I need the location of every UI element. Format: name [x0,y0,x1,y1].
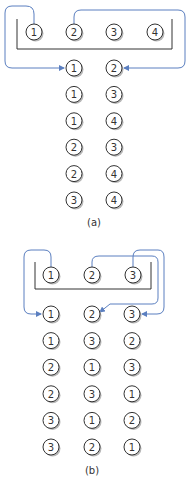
pair-node: 4 [106,113,124,131]
permutation-node: 1 [84,412,102,430]
node-label: 2 [48,389,54,400]
node-label: 1 [89,362,95,373]
chosen-pairs-a: 121314232434 [66,60,124,210]
set-element-node: 1 [26,24,44,42]
node-label: 1 [71,63,77,74]
permutation-node: 2 [124,333,142,351]
permutation-node: 2 [43,386,61,404]
set-element-node: 2 [66,24,84,42]
node-label: 2 [89,270,95,281]
node-label: 1 [71,116,77,127]
node-label: 4 [111,116,117,127]
set-element-node: 4 [147,24,165,42]
arrow-b-2 [92,256,158,312]
diagram-canvas: 1234 121314232434 (a) 123 12313221323131… [0,0,191,483]
permutation-node: 1 [124,386,142,404]
permutation-node: 1 [124,439,142,457]
figure-a: 1234 121314232434 (a) [5,6,185,228]
node-label: 3 [111,27,117,38]
node-label: 2 [129,336,135,347]
node-label: 4 [111,169,117,180]
permutation-node: 2 [43,359,61,377]
node-label: 3 [71,195,77,206]
caption-b: (b) [85,465,99,476]
pair-node: 1 [66,60,84,78]
node-label: 2 [89,442,95,453]
permutation-node: 3 [43,412,61,430]
node-label: 1 [31,27,37,38]
permutation-node: 1 [43,306,61,324]
node-label: 1 [129,389,135,400]
node-label: 2 [71,142,77,153]
arrow-a-2 [74,10,185,68]
set-element-node: 3 [106,24,124,42]
node-label: 3 [48,442,54,453]
node-label: 3 [111,89,117,100]
node-label: 4 [111,195,117,206]
node-label: 4 [152,27,158,38]
node-label: 3 [129,309,135,320]
permutation-node: 2 [84,306,102,324]
pair-node: 3 [106,86,124,104]
set-a-elements: 1234 [26,24,165,42]
pair-node: 1 [66,113,84,131]
permutation-node: 3 [124,359,142,377]
permutation-node: 1 [84,359,102,377]
pair-node: 4 [106,192,124,210]
set-element-node: 1 [43,267,61,285]
node-label: 2 [71,169,77,180]
node-label: 3 [129,362,135,373]
figure-b: 123 123132213231312321 (b) [24,250,164,476]
pair-node: 2 [66,139,84,157]
pair-node: 2 [66,166,84,184]
set-element-node: 3 [125,267,143,285]
permutation-node: 1 [43,333,61,351]
node-label: 1 [48,309,54,320]
node-label: 2 [129,415,135,426]
node-label: 3 [89,336,95,347]
permutations-b: 123132213231312321 [43,306,142,457]
permutation-node: 2 [124,412,142,430]
node-label: 2 [111,63,117,74]
permutation-node: 3 [43,439,61,457]
pair-node: 1 [66,86,84,104]
node-label: 2 [89,309,95,320]
permutation-node: 2 [84,439,102,457]
node-label: 2 [48,362,54,373]
caption-a: (a) [87,217,101,228]
node-label: 3 [48,415,54,426]
set-b-elements: 123 [43,267,143,285]
node-label: 1 [71,89,77,100]
node-label: 3 [130,270,136,281]
permutation-node: 3 [84,333,102,351]
node-label: 1 [89,415,95,426]
permutation-node: 3 [124,306,142,324]
node-label: 3 [89,389,95,400]
node-label: 2 [71,27,77,38]
node-label: 1 [48,270,54,281]
node-label: 1 [48,336,54,347]
pair-node: 2 [106,60,124,78]
node-label: 1 [129,442,135,453]
permutation-node: 3 [84,386,102,404]
pair-node: 3 [106,139,124,157]
pair-node: 4 [106,166,124,184]
set-element-node: 2 [84,267,102,285]
pair-node: 3 [66,192,84,210]
node-label: 3 [111,142,117,153]
